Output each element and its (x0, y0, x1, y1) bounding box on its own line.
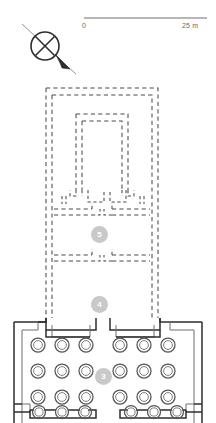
inner-dashed-sanctuary-graphic (70, 114, 134, 196)
column (148, 406, 161, 419)
column (171, 406, 184, 419)
column (79, 364, 93, 378)
column (113, 364, 127, 378)
plan-drawing: .dashline{fill:none;stroke:#4a4a4a;strok… (0, 0, 216, 423)
column (161, 390, 175, 404)
scale-bar-max-label: 25 m (182, 22, 198, 29)
column (55, 390, 69, 404)
arrowhead-icon (56, 55, 70, 69)
column (137, 364, 151, 378)
north-arrow-graphic (22, 24, 76, 74)
column (113, 338, 127, 352)
column (55, 338, 69, 352)
column (31, 364, 45, 378)
outer-dashed-enclosure-graphic (46, 88, 158, 318)
column (31, 338, 45, 352)
room-label-3: 3 (95, 368, 112, 385)
column (56, 406, 69, 419)
column (33, 406, 46, 419)
column (113, 390, 127, 404)
column (55, 364, 69, 378)
column (161, 338, 175, 352)
temple-plan-figure: .dashline{fill:none;stroke:#4a4a4a;strok… (0, 0, 216, 423)
column (79, 406, 92, 419)
room-label-5: 5 (91, 226, 108, 243)
scale-bar-zero-label: 0 (82, 22, 86, 29)
column (79, 390, 93, 404)
column (137, 338, 151, 352)
column (31, 390, 45, 404)
column (79, 338, 93, 352)
screen-wall-column-row (30, 406, 186, 419)
column (137, 390, 151, 404)
sanctuary-threshold-piers (62, 190, 144, 204)
column (161, 364, 175, 378)
column (125, 406, 138, 419)
room-label-4: 4 (91, 296, 108, 313)
